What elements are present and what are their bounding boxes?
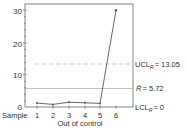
x-tick-6: 6 xyxy=(114,111,118,120)
control-chart: 30 20 10 0 UCLR= 13.05 R̄= 5.72 LCLR= 0 … xyxy=(0,0,187,128)
data-points xyxy=(36,9,117,105)
x-axis-label: Out of control xyxy=(57,119,102,128)
y-tick-20: 20 xyxy=(13,40,22,49)
x-tick-1: 1 xyxy=(35,111,39,120)
y-tick-10: 10 xyxy=(13,71,22,80)
ucl-label: UCLR= 13.05 xyxy=(135,60,180,70)
center-line-label: R̄= 5.72 xyxy=(136,84,163,93)
x-tick-2: 2 xyxy=(51,111,55,120)
plot-frame xyxy=(25,4,133,107)
data-series-line xyxy=(37,10,116,104)
x-axis-prefix-label: Sample xyxy=(2,111,27,120)
lcl-label: LCLR= 0 xyxy=(135,103,164,113)
y-tick-30: 30 xyxy=(13,7,22,16)
